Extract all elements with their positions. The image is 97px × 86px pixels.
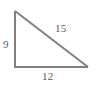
triangle-hypotenuse-path (15, 11, 88, 67)
label-horizontal-leg: 12 (42, 71, 53, 82)
right-triangle-figure: 9 15 12 (0, 0, 97, 86)
label-vertical-leg: 9 (3, 39, 9, 50)
label-hypotenuse: 15 (55, 23, 66, 34)
